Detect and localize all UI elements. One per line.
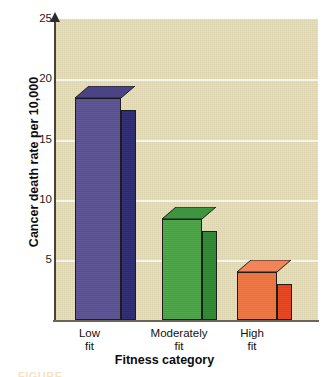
y-axis-title: Cancer death rate per 10,000 <box>27 62 41 262</box>
y-tick-25: 25 <box>4 12 52 24</box>
bar-low-fit-side <box>121 110 136 320</box>
x-tick-label-moderately-fit-line1: Moderately <box>137 327 221 340</box>
bar-moderately-fit-front <box>162 219 202 320</box>
bar-high-fit-side <box>277 284 292 320</box>
figure-caption-sliver: FIGURE <box>18 370 63 377</box>
x-tick-label-low-fit: Low fit <box>52 327 127 353</box>
x-tick-label-high-fit-line1: High <box>219 327 285 340</box>
x-tick-label-high-fit-line2: fit <box>219 340 285 353</box>
chart-figure: 25 20 15 10 5 Cancer death rate per 10,0… <box>0 0 329 377</box>
x-tick-label-high-fit: High fit <box>219 327 285 353</box>
y-axis-line <box>54 19 56 321</box>
x-axis-title: Fitness category <box>0 353 329 367</box>
bar-low-fit <box>75 98 121 320</box>
bar-moderately-fit-side <box>202 231 217 320</box>
x-tick-label-moderately-fit-line2: fit <box>137 340 221 353</box>
bar-high-fit-front <box>237 272 277 320</box>
bar-low-fit-front <box>75 98 121 320</box>
bar-high-fit <box>237 272 277 320</box>
x-tick-label-low-fit-line1: Low <box>52 327 127 340</box>
x-axis-line <box>53 320 319 322</box>
x-tick-label-moderately-fit: Moderately fit <box>137 327 221 353</box>
y-tick-labels: 25 20 15 10 5 <box>0 0 52 377</box>
gridline-20 <box>55 79 318 81</box>
x-tick-label-low-fit-line2: fit <box>52 340 127 353</box>
plot-area <box>55 19 318 320</box>
bar-moderately-fit <box>162 219 202 320</box>
